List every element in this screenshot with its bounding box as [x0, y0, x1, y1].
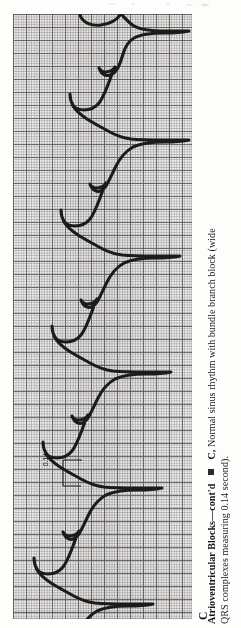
ecg-waveform-trace: [13, 14, 192, 619]
caption-text-part-1: Normal sinus rhythm with bundle branch b…: [206, 228, 217, 447]
caption-series-title: Atrioventricular Blocks—cont'd: [206, 484, 217, 624]
figure-caption-line-2: QRS complexes measuring 0.14 second).: [219, 456, 230, 624]
ecg-rhythm-strip: 0.14: [13, 14, 192, 619]
caption-panel-label: C,: [206, 450, 217, 460]
page-bleed-artifact: [0, 0, 241, 13]
filled-square-bullet-icon: [208, 469, 214, 475]
qrs-duration-marker: 0.14: [47, 452, 91, 512]
qrs-duration-label: 0.14: [43, 453, 49, 466]
figure-caption-line-1: Atrioventricular Blocks—cont'd C, Normal…: [206, 228, 217, 624]
